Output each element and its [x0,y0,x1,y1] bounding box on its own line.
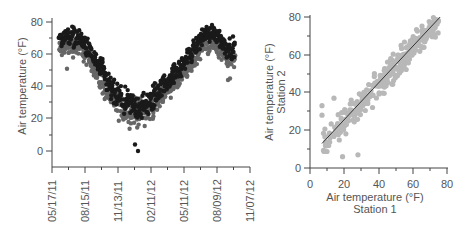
right-ytick-60: 60 [289,49,301,61]
left-ytick-40: 40 [31,80,43,92]
left-ytick-60: 60 [31,48,43,60]
right-y-axis-subtitle: Station 2 [275,70,287,113]
right-ytick-0: 0 [295,162,301,174]
right-xtick-60: 60 [407,178,419,190]
left-xtick-label: 05/11/12 [178,180,190,222]
timeseries-points [57,23,238,153]
right-xtick-20: 20 [338,178,350,190]
left-ytick-80: 80 [31,16,43,28]
right-y-ticks [304,17,310,168]
timeseries-chart: 80 60 40 20 0 Air temperature (°F) 05/17… [16,16,256,222]
regression-line [322,17,440,143]
left-xtick-label: 02/11/12 [145,180,157,222]
right-y-axis-title: Air temperature (°F) [263,43,275,140]
figure: 80 60 40 20 0 Air temperature (°F) 05/17… [0,0,470,230]
right-x-axis-subtitle: Station 1 [353,203,396,215]
correlation-scatter-chart: 80 60 40 20 0 Air temperature (°F) Stati… [263,11,453,215]
left-xtick-label: 11/13/11 [112,181,124,222]
left-xtick-label: 08/09/12 [211,179,223,222]
right-ytick-20: 20 [289,124,301,136]
right-xtick-0: 0 [307,178,313,190]
right-ytick-40: 40 [289,86,301,98]
right-ytick-80: 80 [289,11,301,23]
correlation-points [319,15,441,159]
left-y-ticks [46,22,52,151]
right-xtick-80: 80 [441,178,453,190]
left-y-axis-title: Air temperature (°F) [16,37,28,134]
right-x-axis-title: Air temperature (°F) [326,191,423,203]
left-xtick-label: 05/17/11 [46,180,58,222]
left-xtick-label: 11/07/12 [244,180,256,222]
left-x-ticks [52,167,250,173]
right-xtick-40: 40 [373,178,385,190]
left-x-tick-labels: 05/17/11 08/15/11 11/13/11 02/11/12 05/1… [46,179,256,222]
left-ytick-0: 0 [37,145,43,157]
right-x-ticks [310,168,447,174]
left-xtick-label: 08/15/11 [79,180,91,222]
left-ytick-20: 20 [31,112,43,124]
